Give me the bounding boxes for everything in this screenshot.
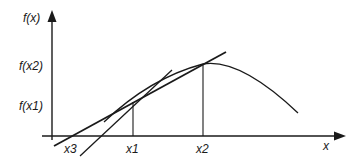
- y-axis-label: f(x): [23, 11, 40, 25]
- secant-diagram: f(x) f(x2) f(x1) x3 x1 x2 x: [0, 0, 362, 160]
- y-tick-fx2: f(x2): [19, 59, 43, 73]
- x-tick-x1: x1: [125, 142, 139, 156]
- y-tick-fx1: f(x1): [19, 99, 43, 113]
- x-axis-label: x: [322, 139, 330, 153]
- x-tick-x2: x2: [195, 142, 209, 156]
- x-tick-x3: x3: [63, 142, 77, 156]
- x-axis-arrow-icon: [334, 132, 346, 141]
- secant-line: [54, 52, 226, 146]
- y-axis-arrow-icon: [48, 10, 57, 22]
